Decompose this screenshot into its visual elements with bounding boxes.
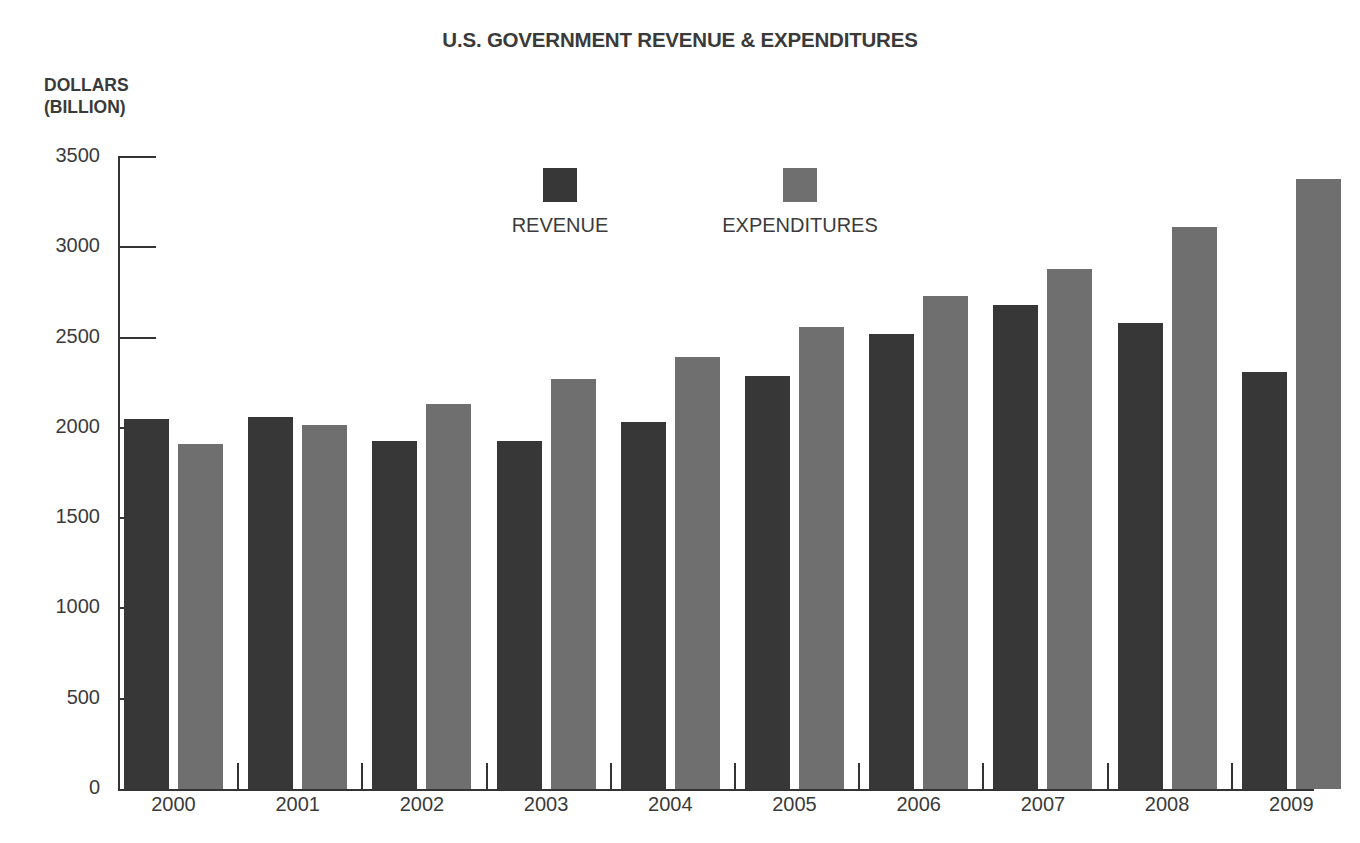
x-axis-label-2006: 2006 — [869, 793, 969, 816]
x-axis-tick — [734, 763, 736, 790]
y-axis-tick-label: 1000 — [28, 595, 100, 619]
bar-revenue-2009 — [1242, 372, 1287, 789]
y-axis-tick-label-text: 500 — [28, 686, 100, 709]
y-axis-tick-label: 1500 — [28, 505, 100, 529]
bar-revenue-2008 — [1118, 323, 1163, 789]
bar-revenue-2003 — [497, 441, 542, 789]
bar-expenditures-2005 — [799, 327, 844, 789]
bar-revenue-2002 — [372, 441, 417, 790]
bar-revenue-2006 — [869, 334, 914, 789]
x-axis-label-2000: 2000 — [124, 793, 224, 816]
x-axis-tick — [858, 763, 860, 790]
chart-container: U.S. GOVERNMENT REVENUE & EXPENDITURES D… — [0, 0, 1360, 843]
y-axis-tick-label-text: 1500 — [28, 505, 100, 528]
bar-expenditures-2002 — [426, 404, 471, 789]
legend-label-expenditures: EXPENDITURES — [660, 214, 940, 237]
bar-expenditures-2000 — [178, 444, 223, 789]
x-axis-label-2004: 2004 — [620, 793, 720, 816]
y-axis-tick-label-text: 3000 — [28, 234, 100, 257]
y-axis-tick-label: 500 — [28, 686, 100, 710]
plot-area: 0500100015002000250030003500 20002001200… — [0, 0, 1360, 843]
x-axis-label-2005: 2005 — [745, 793, 845, 816]
x-axis-label-2002: 2002 — [372, 793, 472, 816]
y-axis-tick-label-text: 2500 — [28, 325, 100, 348]
legend-item-expenditures: EXPENDITURES — [660, 168, 940, 237]
y-axis-tick-label: 0 — [28, 776, 100, 800]
legend-label-revenue: REVENUE — [460, 214, 660, 237]
x-axis-tick — [1231, 763, 1233, 790]
bar-expenditures-2001 — [302, 425, 347, 789]
y-axis-tick-label: 2000 — [28, 415, 100, 439]
y-axis-line — [118, 157, 120, 791]
y-axis-tick-label: 3000 — [28, 234, 100, 258]
x-axis-tick — [1107, 763, 1109, 790]
bar-expenditures-2003 — [551, 379, 596, 789]
y-axis-tick — [118, 156, 156, 158]
x-axis-label-2009: 2009 — [1241, 793, 1341, 816]
x-axis-tick — [237, 763, 239, 790]
bar-expenditures-2004 — [675, 357, 720, 789]
y-axis-tick-label: 2500 — [28, 325, 100, 349]
y-axis-tick-label-text: 2000 — [28, 415, 100, 438]
y-axis-tick-label: 3500 — [28, 144, 100, 168]
x-axis-label-2001: 2001 — [248, 793, 348, 816]
y-axis-tick-label-text: 0 — [28, 776, 100, 799]
bar-expenditures-2009 — [1296, 179, 1341, 789]
bar-revenue-2007 — [993, 305, 1038, 789]
x-axis-line — [118, 789, 1314, 791]
y-axis-tick — [118, 246, 156, 248]
bar-revenue-2000 — [124, 419, 169, 789]
x-axis-tick — [361, 763, 363, 790]
bar-expenditures-2007 — [1047, 269, 1092, 789]
x-axis-label-2007: 2007 — [993, 793, 1093, 816]
bar-revenue-2005 — [745, 376, 790, 790]
legend-item-revenue: REVENUE — [460, 168, 660, 237]
legend-swatch-revenue — [543, 168, 577, 202]
x-axis-tick — [982, 763, 984, 790]
bar-expenditures-2006 — [923, 296, 968, 789]
legend-swatch-expenditures — [783, 168, 817, 202]
x-axis-tick — [486, 763, 488, 790]
y-axis-tick-label-text: 1000 — [28, 595, 100, 618]
bar-expenditures-2008 — [1172, 227, 1217, 789]
x-axis-label-2008: 2008 — [1117, 793, 1217, 816]
y-axis-tick-label-text: 3500 — [28, 144, 100, 167]
bar-revenue-2001 — [248, 417, 293, 789]
x-axis-tick — [610, 763, 612, 790]
y-axis-tick — [118, 337, 156, 339]
x-axis-label-2003: 2003 — [496, 793, 596, 816]
bar-revenue-2004 — [621, 422, 666, 789]
